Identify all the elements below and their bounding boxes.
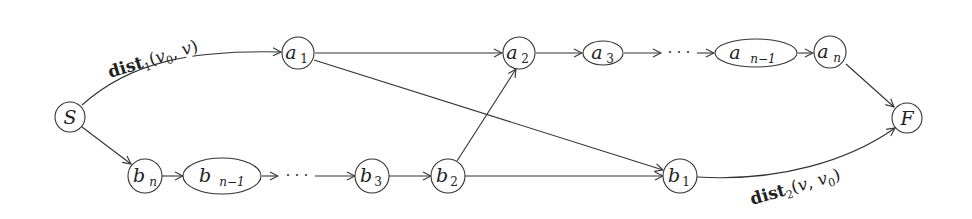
node-a3-label: a: [591, 41, 602, 63]
node-an-label: a: [817, 40, 828, 62]
edge-an-f: [846, 64, 894, 107]
edge-a1-b1: [314, 60, 663, 170]
node-b1-sub: 1: [682, 175, 690, 189]
node-bn1-sub: n−1: [219, 175, 244, 189]
node-bn1-label: b: [199, 164, 211, 186]
node-s-label: S: [63, 106, 76, 128]
ellipsis-top: · · ·: [668, 44, 690, 60]
node-an1-label: a: [729, 41, 740, 63]
node-a2-label: a: [506, 41, 517, 63]
node-b2-sub: 2: [450, 175, 458, 189]
edge-s-bn: [82, 127, 131, 164]
graph-canvas: S a 1 a 2 a 3 a n−1 a n F b n b n−1 b 3 …: [0, 0, 972, 219]
node-bn-sub: n: [149, 175, 157, 189]
ellipsis-bottom: · · ·: [286, 167, 308, 183]
graph-diagram: S a 1 a 2 a 3 a n−1 a n F b n b n−1 b 3 …: [0, 0, 972, 219]
node-a2-sub: 2: [521, 52, 529, 66]
svg-text:dist2(v, v0): dist2(v, v0): [748, 164, 844, 212]
node-a3-sub: 3: [606, 52, 614, 66]
edge-b2-a2: [457, 69, 516, 161]
node-a1-label: a: [285, 41, 296, 63]
edge-label-dist2: dist2(v, v0): [748, 164, 844, 212]
node-b2-label: b: [436, 164, 448, 186]
edge-label-dist1: dist1(v0, v): [105, 35, 201, 84]
node-bn-label: b: [133, 164, 145, 186]
node-a1-sub: 1: [300, 52, 308, 66]
node-b1-label: b: [668, 164, 680, 186]
svg-text:dist1(v0, v): dist1(v0, v): [105, 35, 201, 84]
node-a3: [583, 41, 623, 65]
node-b3-label: b: [360, 164, 372, 186]
node-an-sub: n: [833, 51, 841, 65]
node-an1-sub: n−1: [750, 52, 775, 66]
node-b3-sub: 3: [374, 175, 382, 189]
node-f-label: F: [899, 107, 914, 129]
edge-b1-f: [697, 128, 895, 178]
